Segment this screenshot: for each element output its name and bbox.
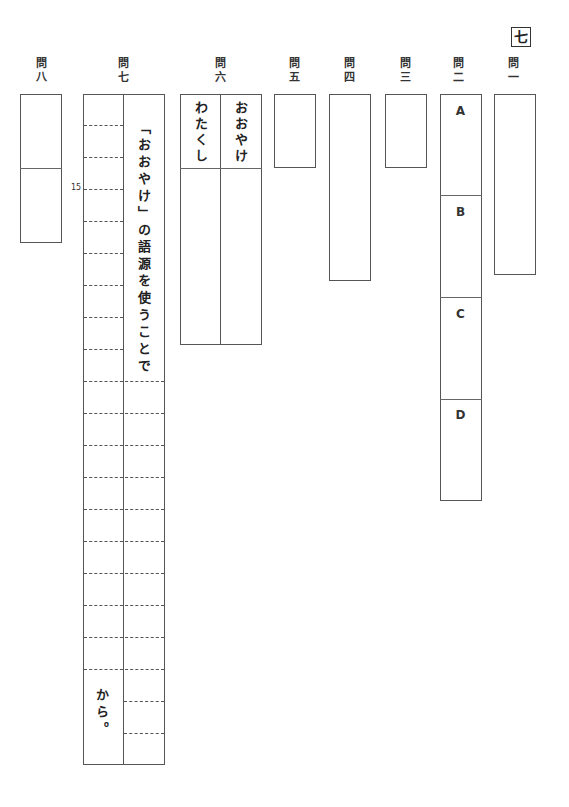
question-1-label-top: 問 (498, 57, 528, 71)
question-7-label-bottom: 七 (108, 71, 138, 85)
question-5-answer-box[interactable] (274, 94, 316, 168)
question-1-label-bottom: 一 (498, 71, 528, 85)
question-2-part-d-label: D (440, 408, 481, 422)
question-6-column-oyake-label: おおやけ (231, 101, 250, 165)
question-2-label: 問 二 (443, 57, 473, 85)
question-2-part-b-field[interactable] (441, 222, 481, 296)
question-2-divider-ab (440, 195, 482, 196)
question-7-char-count-marker: 15 (71, 183, 81, 192)
question-4-label: 問 四 (334, 57, 364, 85)
question-6-label-top: 問 (205, 57, 235, 71)
question-3-label-bottom: 三 (390, 71, 420, 85)
question-3-answer-box[interactable] (385, 94, 427, 168)
question-6-label-bottom: 六 (205, 71, 235, 85)
question-8-field-2[interactable] (21, 169, 61, 241)
question-8-label-bottom: 八 (26, 71, 56, 85)
question-7-label: 問 七 (108, 57, 138, 85)
section-number-badge: 七 (511, 27, 531, 47)
question-8-label-top: 問 (26, 57, 56, 71)
question-1-label: 問 一 (498, 57, 528, 85)
question-7-writing-field[interactable] (84, 95, 164, 763)
question-2-part-c-label: C (440, 307, 481, 321)
question-5-label-bottom: 五 (279, 71, 309, 85)
question-2-part-a-label: A (440, 104, 481, 118)
question-6-watakushi-field[interactable] (181, 169, 220, 344)
question-2-divider-cd (440, 399, 482, 400)
question-4-label-bottom: 四 (334, 71, 364, 85)
question-2-label-bottom: 二 (443, 71, 473, 85)
question-6-oyake-field[interactable] (221, 169, 261, 344)
question-2-part-c-field[interactable] (441, 324, 481, 398)
question-3-label: 問 三 (390, 57, 420, 85)
question-2-divider-bc (440, 297, 482, 298)
question-4-answer-box[interactable] (329, 94, 371, 281)
question-5-label: 問 五 (279, 57, 309, 85)
question-8-label: 問 八 (26, 57, 56, 85)
question-6-label: 問 六 (205, 57, 235, 85)
question-2-part-d-field[interactable] (441, 426, 481, 500)
question-1-answer-box[interactable] (494, 94, 536, 275)
question-8-field-1[interactable] (21, 95, 61, 167)
question-2-part-b-label: B (440, 205, 481, 219)
question-7-label-top: 問 (108, 57, 138, 71)
question-4-label-top: 問 (334, 57, 364, 71)
question-6-column-watakushi-label: わたくし (191, 101, 210, 165)
question-5-label-top: 問 (279, 57, 309, 71)
question-2-part-a-field[interactable] (441, 120, 481, 194)
question-2-label-top: 問 (443, 57, 473, 71)
question-3-label-top: 問 (390, 57, 420, 71)
